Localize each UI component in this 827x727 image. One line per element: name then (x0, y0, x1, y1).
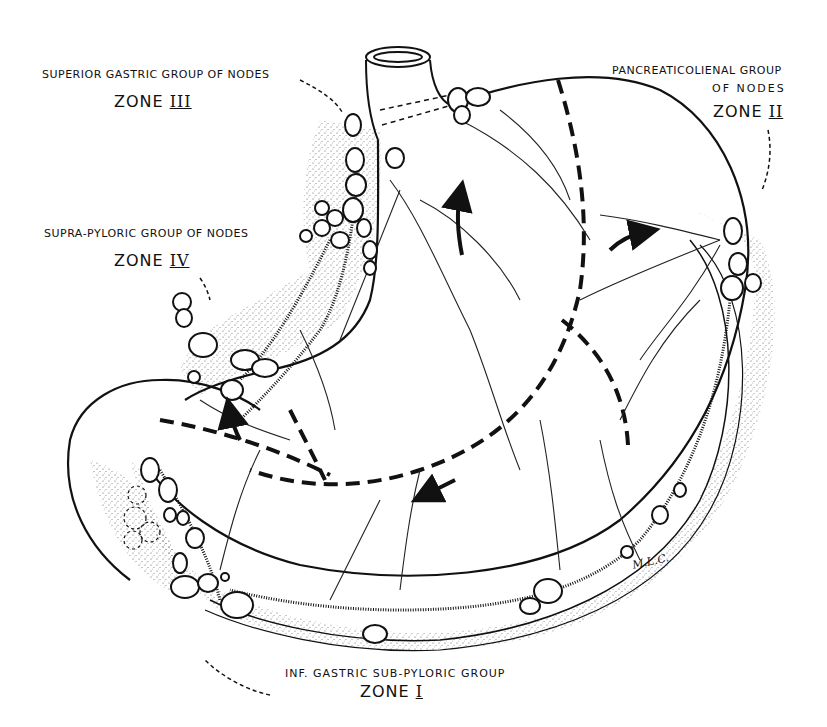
stipple-regions (90, 120, 775, 650)
zone4-numeral: IV (170, 251, 190, 270)
zone1-zone-word: ZONE (360, 682, 410, 701)
zone-dividers (160, 80, 628, 484)
esophagus (366, 47, 452, 140)
zone3-numeral: III (170, 92, 192, 111)
arrow-right-icon (610, 232, 645, 250)
zone1-group-label: INF. GASTRIC SUB-PYLORIC GROUP (285, 667, 505, 680)
zone2-group-label-line2: OF NODES (712, 82, 786, 95)
zone1-title: ZONEI (360, 682, 423, 701)
zone1-numeral: I (416, 682, 423, 701)
zone2-numeral: II (769, 102, 784, 121)
lymphatic-trunks (160, 150, 730, 610)
zone2-group-label-line1: PANCREATICOLIENAL GROUP (612, 64, 782, 77)
zone3-group-label: SUPERIOR GASTRIC GROUP OF NODES (42, 68, 269, 81)
zone4-zone-word: ZONE (114, 251, 164, 270)
arrow-left-icon (425, 480, 455, 495)
zone4-title: ZONEIV (114, 251, 190, 270)
arrow-up-icon (458, 195, 462, 255)
leader-lines (200, 80, 770, 695)
zone2-title: ZONEII (713, 102, 783, 121)
zone3-title: ZONEIII (114, 92, 192, 111)
zone3-zone-word: ZONE (114, 92, 164, 111)
zone2-zone-word: ZONE (713, 102, 763, 121)
zone4-group-label: SUPRA-PYLORIC GROUP OF NODES (44, 227, 248, 240)
